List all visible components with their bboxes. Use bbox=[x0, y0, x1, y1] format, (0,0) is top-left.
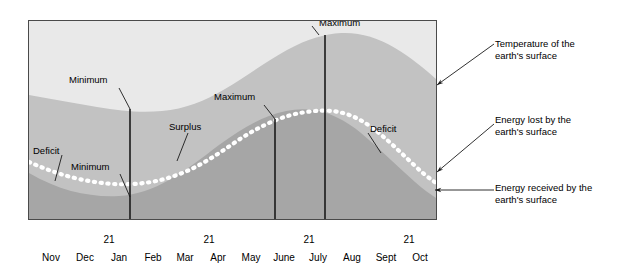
x-axis: 21 21 21 21 Nov Dec Jan Feb Mar Apr May … bbox=[28, 220, 437, 279]
callout-energy-lost: Energy lost by the earth's surface bbox=[495, 114, 571, 138]
axis-day-label: 21 bbox=[294, 234, 324, 245]
callout-energy-received: Energy received by the earth's surface bbox=[495, 182, 592, 206]
callout-energy-lost-line1: Energy lost by the bbox=[495, 114, 571, 126]
callout-energy-received-line2: earth's surface bbox=[495, 194, 592, 206]
annotation-surplus: Surplus bbox=[169, 121, 201, 132]
plot-svg bbox=[29, 21, 436, 219]
annotation-maximum-temperature: Maximum bbox=[319, 20, 360, 28]
annotation-deficit-right: Deficit bbox=[370, 123, 396, 134]
annotation-maximum-energy-received: Maximum bbox=[214, 91, 255, 102]
arrow-energy-lost bbox=[437, 124, 494, 172]
energy-budget-chart: Minimum Minimum Maximum Maximum Surplus … bbox=[0, 0, 629, 279]
callout-energy-lost-line2: earth's surface bbox=[495, 126, 571, 138]
callout-temperature-line2: earth's surface bbox=[495, 50, 575, 62]
axis-day-label: 21 bbox=[94, 234, 124, 245]
annotation-minimum-energy-received: Minimum bbox=[71, 161, 110, 172]
callout-temperature: Temperature of the earth's surface bbox=[495, 38, 575, 62]
axis-month-label: Oct bbox=[400, 252, 440, 263]
axis-tick-marks bbox=[28, 220, 437, 232]
annotation-minimum-temperature: Minimum bbox=[69, 74, 108, 85]
callout-temperature-line1: Temperature of the bbox=[495, 38, 575, 50]
plot-area: Minimum Minimum Maximum Maximum Surplus … bbox=[28, 20, 437, 220]
callout-energy-received-line1: Energy received by the bbox=[495, 182, 592, 194]
axis-day-label: 21 bbox=[394, 234, 424, 245]
annotation-deficit-left: Deficit bbox=[33, 145, 59, 156]
arrow-temperature bbox=[437, 44, 494, 85]
axis-day-label: 21 bbox=[194, 234, 224, 245]
